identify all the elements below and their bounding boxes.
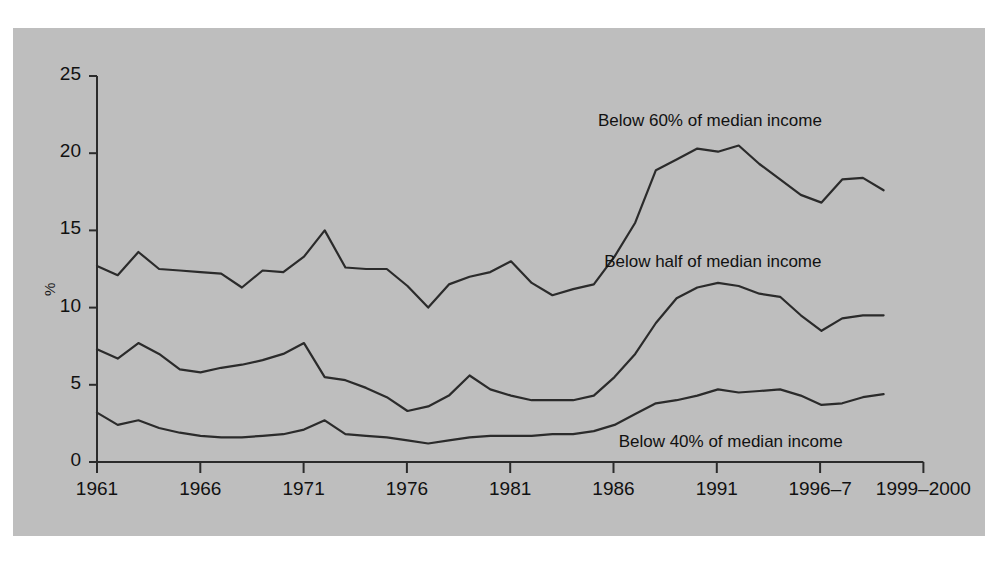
y-tick-label: 0 <box>37 449 81 471</box>
line-chart-svg <box>13 28 985 536</box>
chart-figure: % 0510152025 196119661971197619811986199… <box>13 28 985 536</box>
y-tick-label: 15 <box>37 217 81 239</box>
y-tick-label: 20 <box>37 140 81 162</box>
y-tick-label: 10 <box>37 295 81 317</box>
series-label: Below half of median income <box>604 252 821 272</box>
x-tick-label: 1999–2000 <box>853 478 993 500</box>
series-line <box>97 146 884 308</box>
series-line <box>97 283 884 411</box>
series-label: Below 60% of median income <box>598 111 822 131</box>
chart-series <box>97 146 884 444</box>
y-tick-label: 25 <box>37 63 81 85</box>
series-label: Below 40% of median income <box>619 432 843 452</box>
chart-axes <box>89 76 923 473</box>
y-tick-label: 5 <box>37 372 81 394</box>
